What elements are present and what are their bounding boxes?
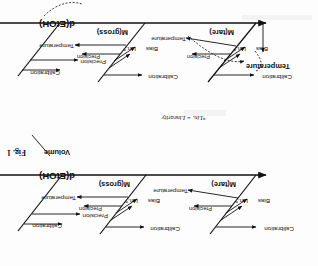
- branch-label-m-gross-bottom: M(gross): [99, 181, 130, 188]
- branch-label-volume-bottom: Volume: [44, 149, 70, 156]
- effect-label-bottom: d(EtOH): [39, 172, 75, 182]
- cause-calibration-m-tare-bottom: Calibration: [264, 226, 294, 232]
- cause-temperature-m-gross-bottom: Temperature: [41, 195, 76, 201]
- cause-bias-m-tare-bottom: Bias: [258, 198, 270, 204]
- cause-temperature-m-tare-bottom: Temperature: [153, 188, 188, 194]
- scanned-page: d(EtOH) M(tare) Calibration Bias Lin.* P…: [0, 0, 318, 266]
- cause-lin-m-tare-bottom: Lin.*: [236, 198, 248, 204]
- cause-bias-m-gross-bottom: Bias: [148, 198, 160, 204]
- cause-calibration-volume-bottom: Calibration: [32, 223, 62, 229]
- cause-lin-m-gross-bottom: Lin.*: [126, 198, 138, 204]
- branch-label-m-tare-bottom: M(tare): [211, 181, 236, 188]
- cause-precision-volume-bottom: Precision: [83, 213, 108, 219]
- scan-artifact: [242, 15, 312, 20]
- cause-precision-m-gross-bottom: Precision: [79, 205, 102, 211]
- scan-artifact: [184, 110, 226, 116]
- cause-precision-m-tare-bottom: Precision: [189, 205, 212, 211]
- figure-caption: Fig. 1: [7, 148, 26, 156]
- cause-calibration-m-gross-bottom: Calibration: [150, 226, 180, 232]
- fishbone-diagram-bottom: d(EtOH) M(tare) Calibration Bias Lin.* P…: [0, 0, 318, 266]
